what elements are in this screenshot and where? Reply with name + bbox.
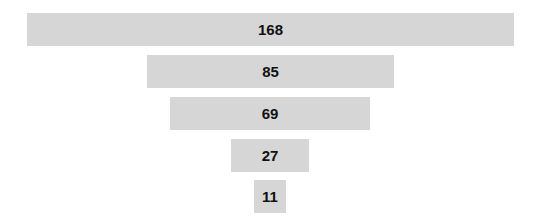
funnel-stage-value: 11 [262, 188, 278, 205]
funnel-stage-value: 69 [262, 105, 279, 122]
funnel-stage-value: 27 [262, 147, 279, 164]
funnel-stage-value: 85 [262, 63, 279, 80]
funnel-stage-1: 168 [27, 13, 514, 46]
funnel-stage-2: 85 [147, 55, 394, 88]
funnel-stage-4: 27 [231, 139, 309, 172]
funnel-stage-5: 11 [254, 180, 286, 213]
funnel-stage-value: 168 [258, 21, 283, 38]
funnel-chart: 16885692711 [0, 0, 538, 222]
funnel-stage-3: 69 [170, 97, 370, 130]
